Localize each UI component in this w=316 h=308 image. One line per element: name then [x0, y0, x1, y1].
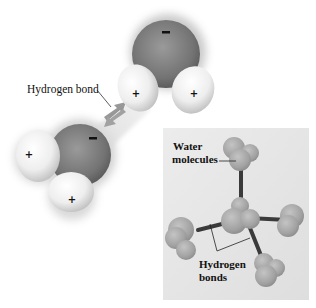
negative-charge-icon	[89, 137, 97, 140]
negative-charge-icon	[162, 31, 170, 34]
hydrogen-bonds-label-line2: bonds	[199, 271, 227, 283]
svg-text:+: +	[25, 149, 33, 160]
water-molecule-left: + +	[16, 124, 111, 212]
hydrogen-atom-left-1	[16, 130, 60, 182]
hydrogen-atom-left-2	[48, 172, 94, 212]
water-molecule-top: + +	[111, 20, 221, 120]
diagram-canvas: + + + +	[0, 0, 316, 308]
hydrogen-bond-label: Hydrogen bond	[27, 83, 99, 95]
svg-text:+: +	[68, 194, 76, 205]
water-molecules-label-line2: molecules	[172, 153, 218, 165]
hydrogen-bond-leader-line	[97, 90, 111, 107]
svg-text:+: +	[190, 88, 198, 99]
water-hydrogen-bond-diagram: + + + +	[0, 0, 316, 308]
svg-text:+: +	[132, 88, 140, 99]
hydrogen-bonds-label-line1: Hydrogen	[199, 258, 246, 270]
water-molecules-label-line1: Water	[173, 140, 202, 152]
